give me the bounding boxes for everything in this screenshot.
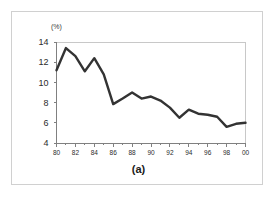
y-axis-tick-label: 6	[43, 118, 48, 128]
y-axis-tick-label: 4	[43, 138, 48, 148]
figure-caption: (a)	[0, 163, 277, 175]
y-axis-tick-labels: 141210864	[38, 37, 48, 148]
x-axis-tick-label: 98	[223, 149, 231, 156]
x-axis-tick-label: 80	[53, 149, 61, 156]
x-axis-tick-labels: 8082848688909294969800	[53, 149, 250, 156]
plot-area-frame	[57, 42, 246, 143]
x-axis-tick-label: 88	[128, 149, 136, 156]
y-axis-tick-label: 12	[38, 57, 48, 67]
x-axis-tick-label: 94	[185, 149, 193, 156]
data-series-line	[57, 48, 246, 127]
x-axis-tick-label: 82	[72, 149, 80, 156]
y-axis-tick-label: 8	[43, 98, 48, 108]
figure-container: (%) 141210864 8082848688909294969800 (a)	[0, 0, 277, 205]
x-axis-tick-label: 86	[110, 149, 118, 156]
x-axis-tick-label: 84	[91, 149, 99, 156]
x-axis-tick-label: 90	[147, 149, 155, 156]
y-axis-tick-label: 10	[38, 78, 48, 88]
x-axis-tick-label: 00	[242, 149, 250, 156]
x-axis-ticks	[57, 143, 246, 147]
x-axis-tick-label: 96	[204, 149, 212, 156]
x-axis-tick-label: 92	[166, 149, 174, 156]
y-axis-tick-label: 14	[38, 37, 48, 47]
